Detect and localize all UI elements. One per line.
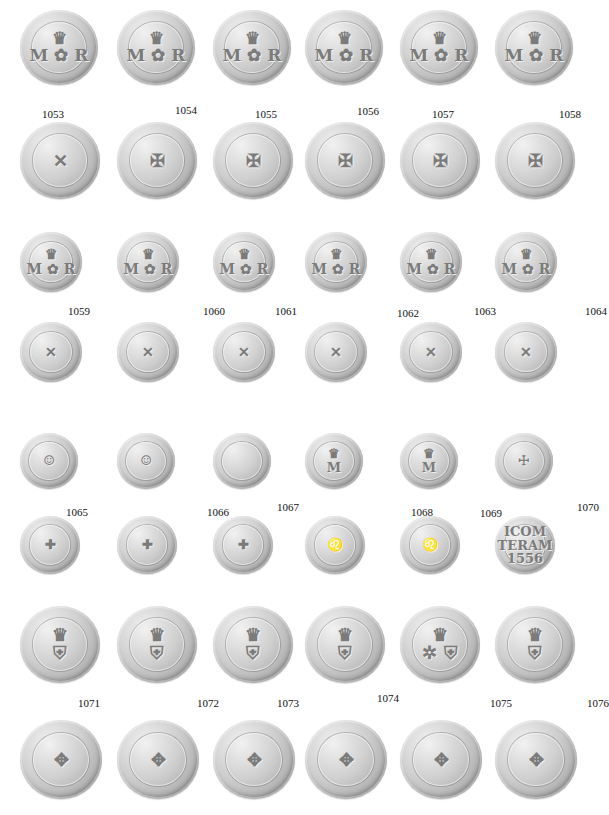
coin-catalogue-number: 1055 [255,108,277,120]
coin-motif-saltire-icon: ✕ [495,345,557,360]
coin-motif-lion-rampant-icon: ♌ [400,538,460,552]
coin-motif-saltire-icon: ✕ [117,345,179,360]
coin-catalogue-number: 1076 [587,697,609,709]
coin-obverse: ♛ ⛨ [117,606,197,683]
coin-catalogue-number: 1073 [277,697,299,709]
coin-motif-crowned-shield-countermark-icon: ♛ ✲ ⛨ [400,626,480,664]
coin-obverse: ♛ M ✿ R [20,10,98,85]
coin-reverse: ✠ [117,122,197,199]
coin-obverse: ♛ M ✿ R [305,232,367,292]
coin-reverse: ✕ [117,322,179,382]
coin-reverse: ✕ [20,122,100,199]
coin-motif-cross-fleury-icon: ✥ [305,750,387,769]
coin-motif-crowned-M-icon: ♛ M [305,447,363,474]
coin-reverse: ✥ [20,720,102,799]
coin-catalogue-number: 1058 [559,108,581,120]
coin-obverse: ♛ M ✿ R [213,10,291,85]
coin-reverse: ✥ [495,720,577,799]
coin-obverse: ♛ M ✿ R [20,232,82,292]
coin-motif-cross-potent-jerusalem-icon: ✠ [117,151,197,170]
coin-motif-cross-fleury-icon: ✥ [400,750,482,769]
coin-catalogue-number: 1053 [42,108,64,120]
coin-catalogue-number: 1060 [203,305,225,317]
coin-obverse: ☺ [20,433,78,489]
coin-obverse: ☩ [495,433,553,489]
coin-reverse: ✕ [495,322,557,382]
coin-obverse [213,433,271,489]
coin-reverse: ✕ [305,322,367,382]
coin-catalogue-number: 1070 [577,501,599,513]
coin-reverse: ✚ [117,516,177,574]
coin-motif-lion-rampant-icon: ♌ [305,538,365,552]
coin-catalogue-number: 1072 [197,697,219,709]
coin-motif-saltire-icon: ✕ [20,345,82,360]
coin-motif-cross-potent-jerusalem-icon: ✠ [400,151,480,170]
coin-obverse: ♛ ⛨ [213,606,293,683]
coin-reverse: ✕ [20,322,82,382]
coin-reverse: ✕ [213,322,275,382]
coin-obverse: ♛ M ✿ R [495,232,557,292]
coin-catalogue-number: 1075 [490,697,512,709]
coin-obverse: ☺ [117,433,175,489]
coin-obverse: ♛ M ✿ R [400,232,462,292]
coin-motif-cross-potent-jerusalem-icon: ✠ [305,151,385,170]
coin-obverse: ♛ M ✿ R [305,10,383,85]
coin-obverse: ♛ ⛨ [20,606,100,683]
coin-reverse: ✠ [495,122,575,199]
coin-reverse: ✚ [20,516,80,574]
coin-obverse: ♛ M ✿ R [495,10,573,85]
coin-catalogue-number: 1061 [275,305,297,317]
coin-obverse: ♛ ⛨ [305,606,385,683]
coin-motif-crown-thistle-MR-icon: ♛ M ✿ R [400,247,462,276]
coin-motif-portrait-head-icon: ☺ [20,454,78,468]
coin-motif-saltire-icon: ✕ [400,345,462,360]
coin-motif-saltire-cross-icon: ✕ [20,151,100,170]
coin-motif-long-cross-icon: ✚ [117,538,177,552]
coin-catalogue-number: 1066 [207,506,229,518]
coin-inner-ring [222,442,261,480]
coin-motif-crowned-shield-icon: ♛ ⛨ [213,626,293,664]
coin-motif-crown-thistle-MR-icon: ♛ M ✿ R [117,247,179,276]
coin-obverse: ♛ M ✿ R [117,10,195,85]
coin-motif-saltire-icon: ✕ [213,345,275,360]
coin-obverse: ♛ M ✿ R [400,10,478,85]
coin-obverse: ♛ M [400,433,458,489]
coin-reverse: ✥ [400,720,482,799]
coin-reverse: ✥ [305,720,387,799]
coin-catalogue-number: 1071 [78,697,100,709]
coin-motif-crown-thistle-MR-icon: ♛ M ✿ R [400,30,478,66]
coin-reverse: ♌ [305,516,365,574]
coin-motif-crown-thistle-MR-icon: ♛ M ✿ R [20,30,98,66]
coin-catalogue-number: 1065 [66,506,88,518]
coin-catalogue-number: 1054 [175,104,197,116]
coin-motif-long-cross-icon: ✚ [20,538,80,552]
coin-reverse: ✥ [117,720,199,799]
coin-motif-crowned-shield-damaged-icon: ♛ ⛨ [117,626,197,664]
coin-catalogue-number: 1063 [474,305,496,317]
coin-motif-crown-thistle-MR-icon: ♛ M ✿ R [117,30,195,66]
coin-reverse: ✠ [213,122,293,199]
coin-motif-long-cross-icon: ✚ [213,538,273,552]
coin-reverse: ✚ [213,516,273,574]
coin-obverse: ♛ M ✿ R [117,232,179,292]
coin-motif-crowned-shield-icon: ♛ ⛨ [495,626,575,664]
coin-reverse: ✥ [213,720,295,799]
coin-obverse: ♛ M [305,433,363,489]
coin-motif-crown-thistle-MR-icon: ♛ M ✿ R [213,30,291,66]
coin-reverse: ♌ [400,516,460,574]
coin-motif-cross-pillar-icon: ☩ [495,454,553,468]
coin-motif-crowned-shield-icon: ♛ ⛨ [20,626,100,664]
coin-catalogue-number: 1064 [585,305,607,317]
coin-catalogue-number: 1069 [480,507,502,519]
coin-motif-crown-thistle-MR-icon: ♛ M ✿ R [305,247,367,276]
coin-catalogue-number: 1059 [68,305,90,317]
coin-motif-cross-fleury-icon: ✥ [117,750,199,769]
coin-reverse: ✠ [305,122,385,199]
coin-catalogue-number: 1062 [397,307,419,319]
coin-reverse: ✕ [400,322,462,382]
coin-reverse: ✠ [400,122,480,199]
coin-reverse: ICOM TERAM 1556 [495,516,555,574]
coin-motif-crown-thistle-MR-icon: ♛ M ✿ R [495,30,573,66]
coin-catalogue-number: 1057 [432,108,454,120]
coin-motif-cross-potent-jerusalem-icon: ✠ [495,151,575,170]
